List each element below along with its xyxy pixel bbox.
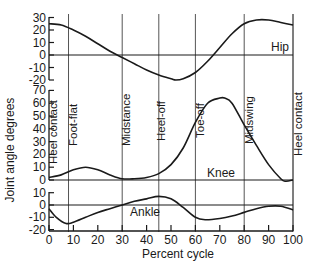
event-foot-flat: Foot-flat [67, 103, 79, 146]
event-midstance: Midstance [120, 94, 132, 146]
event-toe-off: Toe-off [194, 102, 206, 138]
x-tick-label: 80 [238, 233, 252, 247]
y-axis-title: Joint angle degrees [3, 98, 17, 203]
x-tick-label: 30 [116, 233, 130, 247]
x-tick-label: 50 [164, 233, 178, 247]
x-tick-label: 0 [46, 233, 53, 247]
event-heel-off: Heel-off [155, 100, 167, 141]
x-tick-label: 20 [91, 233, 105, 247]
ankle-curve [49, 196, 293, 223]
x-tick-label: 100 [283, 233, 303, 247]
x-tick-label: 10 [67, 233, 81, 247]
event-heel-contact: Heel contact [47, 99, 59, 164]
x-axis-title: Percent cycle [142, 247, 214, 261]
ankle-label: Ankle [130, 205, 160, 219]
curves [49, 20, 293, 224]
x-tick-label: 60 [189, 233, 203, 247]
hip-curve [49, 20, 293, 80]
x-tick-label: 70 [213, 233, 227, 247]
hip-label: Hip [271, 40, 289, 54]
gait-chart: 3020100-10-20706050403020100100-10-20010… [0, 0, 321, 272]
event-midswing: Midswing [243, 96, 255, 144]
event-heel-contact-end: Heel contact [292, 91, 304, 156]
knee-label: Knee [207, 166, 235, 180]
x-tick-label: 90 [262, 233, 276, 247]
y-tick-label: -20 [29, 223, 47, 237]
x-tick-label: 40 [140, 233, 154, 247]
knee-curve [49, 97, 293, 181]
